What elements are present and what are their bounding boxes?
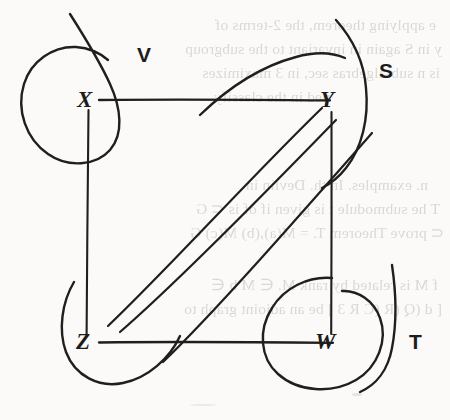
edge-Z-W bbox=[99, 342, 333, 343]
vertex-label-Z: Z bbox=[76, 330, 90, 353]
region-label-T: T bbox=[409, 331, 422, 352]
edge-X-Z bbox=[87, 110, 89, 334]
vertex-label-W: W bbox=[315, 330, 335, 353]
region-label-S: S bbox=[379, 60, 393, 81]
region-V-outline bbox=[21, 14, 119, 163]
edge-Z-Y-diagonal bbox=[108, 108, 322, 326]
edge-diagonal-mid bbox=[120, 120, 336, 332]
region-label-V: V bbox=[137, 44, 151, 65]
vertex-label-X: X bbox=[77, 88, 92, 111]
vertex-label-Y: Y bbox=[320, 88, 334, 111]
scanned-page: e applying theorem, the 2-terms of y in … bbox=[0, 0, 450, 420]
edge-diagonal-lower bbox=[163, 133, 372, 362]
